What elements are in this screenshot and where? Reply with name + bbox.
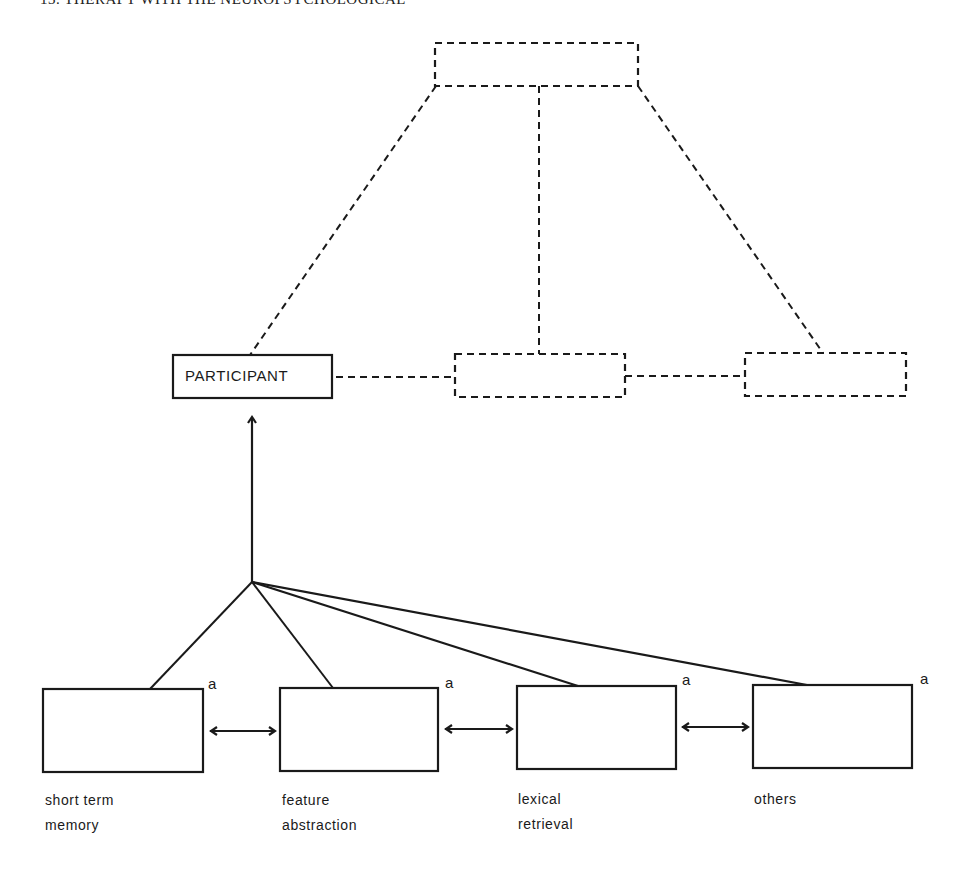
- caption-others: others: [754, 787, 797, 812]
- dashed-link-top-to-right: [638, 86, 823, 353]
- caption-line-1: feature: [282, 788, 357, 813]
- component-box-feature-abstraction: [280, 688, 438, 771]
- superscript-a-feature-abstraction: a: [445, 674, 453, 691]
- top-node-box: [435, 43, 638, 86]
- middle-dashed-box: [455, 354, 625, 397]
- caption-feature-abstraction: feature abstraction: [282, 788, 357, 838]
- superscript-a-short-term-memory: a: [208, 675, 216, 692]
- hub-link-feature-abstraction: [252, 582, 333, 688]
- superscript-a-lexical-retrieval: a: [682, 671, 690, 688]
- diagram-canvas: [0, 0, 963, 882]
- caption-lexical-retrieval: lexical retrieval: [518, 787, 573, 837]
- component-box-others: [753, 685, 912, 768]
- caption-line-2: abstraction: [282, 813, 357, 838]
- caption-line-2: retrieval: [518, 812, 573, 837]
- caption-short-term-memory: short term memory: [45, 788, 114, 838]
- component-box-short-term-memory: [43, 689, 203, 772]
- superscript-a-others: a: [920, 670, 928, 687]
- caption-line-1: others: [754, 787, 797, 812]
- caption-line-2: memory: [45, 813, 114, 838]
- caption-line-1: short term: [45, 788, 114, 813]
- hub-link-short-term-memory: [150, 582, 252, 689]
- right-dashed-box: [745, 353, 906, 396]
- component-box-lexical-retrieval: [517, 686, 676, 769]
- dashed-link-top-to-participant: [250, 86, 436, 355]
- caption-line-1: lexical: [518, 787, 573, 812]
- participant-label: PARTICIPANT: [185, 367, 288, 384]
